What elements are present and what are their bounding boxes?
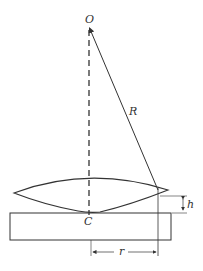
figure-caption-clipped: [0, 264, 203, 271]
newtons-rings-diagram: O R C h r: [0, 0, 203, 271]
label-r-radius: R: [128, 105, 137, 118]
label-o: O: [85, 13, 94, 26]
radius-line: [90, 28, 159, 190]
label-h: h: [187, 198, 194, 211]
label-c: C: [84, 215, 93, 228]
lens-shape: [14, 178, 168, 212]
label-r-ring: r: [119, 245, 125, 258]
